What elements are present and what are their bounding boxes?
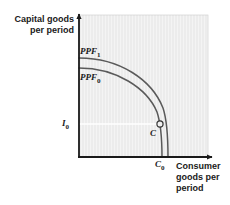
x-axis-label-line1: Consumer: [176, 161, 221, 171]
x-axis-label-line3: period: [176, 183, 204, 193]
ppf0-curve-label-subscript: 0: [97, 77, 101, 85]
ppf1-curve-label: PPF1: [80, 46, 101, 59]
y-axis-label: Capital goods per period: [4, 14, 74, 36]
ppf0-curve-label: PPF0: [80, 72, 101, 85]
point-c-label: C: [150, 128, 156, 138]
plot-area-background: [79, 15, 208, 157]
point-c-marker: [157, 121, 163, 127]
c0-tick-label: C0: [155, 159, 165, 172]
i0-tick-label-subscript: 0: [66, 123, 70, 131]
ppf1-curve-label-subscript: 1: [97, 51, 101, 59]
ppf0-curve-label-text: PPF: [80, 72, 97, 82]
x-axis-label: Consumer goods per period: [176, 161, 228, 194]
y-axis-label-line1: Capital goods: [14, 14, 74, 24]
y-axis-label-line2: per period: [30, 25, 74, 35]
c0-tick-label-subscript: 0: [161, 164, 165, 172]
ppf1-curve-label-text: PPF: [80, 46, 97, 56]
point-c-label-text: C: [150, 128, 156, 138]
x-axis-label-line2: goods per: [176, 172, 220, 182]
i0-tick-label: I0: [62, 118, 69, 131]
